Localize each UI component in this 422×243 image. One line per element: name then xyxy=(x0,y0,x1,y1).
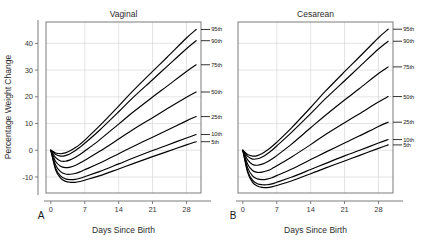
percentile-label: 90th xyxy=(211,38,222,44)
percentile-curve xyxy=(51,29,196,153)
x-axis-title: Days Since Birth xyxy=(284,225,347,235)
y-tick-label: 20 xyxy=(25,92,33,101)
percentile-curve xyxy=(51,92,196,168)
panel-letter: A xyxy=(38,210,45,221)
x-tick-label: 28 xyxy=(182,205,190,214)
percentile-label: 95th xyxy=(403,26,414,32)
percentile-curve xyxy=(243,140,388,185)
x-tick-label: 14 xyxy=(114,205,122,214)
percentile-label: 50th xyxy=(403,94,414,100)
y-tick-label: 10 xyxy=(25,119,33,128)
panel-letter: B xyxy=(230,210,237,221)
y-axis-title: Percentage Weight Change xyxy=(3,55,13,160)
x-tick-label: 0 xyxy=(49,205,53,214)
percentile-label: 25th xyxy=(211,114,222,120)
percentile-curve xyxy=(243,29,388,156)
x-tick-label: 7 xyxy=(275,205,279,214)
percentile-label: 50th xyxy=(211,89,222,95)
x-tick-label: 14 xyxy=(306,205,314,214)
panel-vaginal: VaginalDays Since BirthA07142128-1001020… xyxy=(3,9,222,235)
percentile-label: 5th xyxy=(211,139,219,145)
y-tick-label: -10 xyxy=(22,173,33,182)
y-tick-label: 0 xyxy=(29,146,33,155)
percentile-label: 75th xyxy=(403,64,414,70)
x-tick-label: 21 xyxy=(340,205,348,214)
x-axis-title: Days Since Birth xyxy=(92,225,155,235)
percentile-curve xyxy=(51,65,196,162)
x-tick-label: 0 xyxy=(241,205,245,214)
x-tick-label: 28 xyxy=(374,205,382,214)
curves-group xyxy=(243,29,388,187)
x-tick-label: 21 xyxy=(148,205,156,214)
percentile-label: 10th xyxy=(211,131,222,137)
percentile-label: 25th xyxy=(403,119,414,125)
chart-svg: VaginalDays Since BirthA07142128-1001020… xyxy=(0,0,422,243)
y-tick-label: 40 xyxy=(25,39,33,48)
x-tick-label: 7 xyxy=(83,205,87,214)
curves-group xyxy=(51,29,196,182)
percentile-label: 75th xyxy=(211,62,222,68)
percentile-label: 5th xyxy=(403,142,411,148)
percentile-curve xyxy=(51,134,196,179)
percentile-curve xyxy=(51,117,196,175)
panel-title: Cesarean xyxy=(297,9,334,19)
panel-cesarean: CesareanDays Since BirthB0714212895th90t… xyxy=(230,9,414,235)
percentile-label: 95th xyxy=(211,26,222,32)
figure-container: VaginalDays Since BirthA07142128-1001020… xyxy=(0,0,422,243)
percentile-curve xyxy=(51,41,196,156)
panel-title: Vaginal xyxy=(110,9,138,19)
y-tick-label: 30 xyxy=(25,66,33,75)
percentile-label: 90th xyxy=(403,38,414,44)
